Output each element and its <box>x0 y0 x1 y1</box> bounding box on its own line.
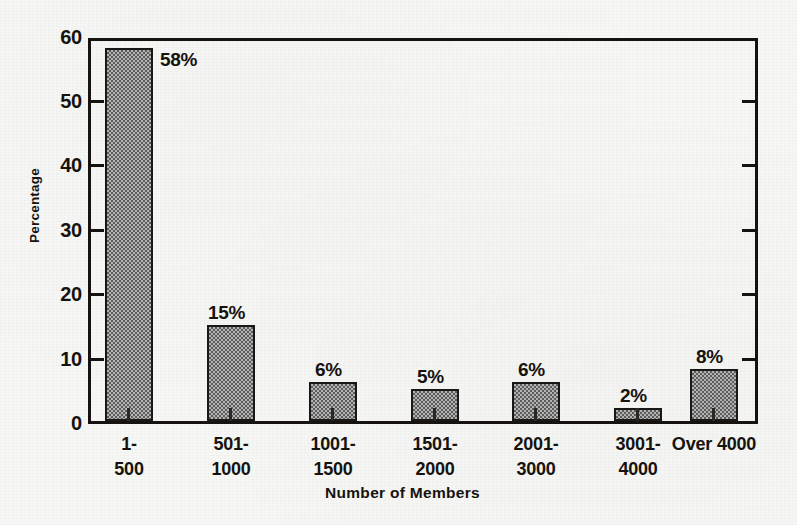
y-tick-label-60: 60 <box>42 26 82 49</box>
y-tick-mark-30 <box>91 229 104 232</box>
x-category-line1-2001-3000: 2001- <box>513 434 558 454</box>
x-category-line1-1501-2000: 1501- <box>412 434 457 454</box>
x-category-line1-1-500: 1- <box>121 434 137 454</box>
bar-501-1000 <box>207 325 255 421</box>
y-tick-mark-50 <box>91 100 104 103</box>
x-category-label-over-4000: Over 4000 <box>654 432 774 457</box>
x-tick-mark-over-4000 <box>712 408 715 421</box>
y-tick-mark-right-50 <box>742 100 755 103</box>
x-category-line2-3001-4000: 4000 <box>578 457 698 482</box>
bar-value-2001-3000: 6% <box>518 359 545 381</box>
x-tick-mark-3001-4000 <box>636 408 639 421</box>
bar-value-501-1000: 15% <box>208 302 245 324</box>
y-axis-title: Percentage <box>27 146 42 266</box>
x-axis-title-text: Number of Members <box>317 484 480 501</box>
x-tick-mark-1-500 <box>127 408 130 421</box>
bar-1-500 <box>105 48 153 421</box>
y-tick-mark-right-30 <box>742 229 755 232</box>
y-tick-label-20: 20 <box>42 283 82 306</box>
y-tick-mark-20 <box>91 293 104 296</box>
y-tick-label-50: 50 <box>42 90 82 113</box>
x-category-line1-over-4000: Over 4000 <box>672 434 756 454</box>
bar-value-1-500: 58% <box>160 49 197 71</box>
x-tick-mark-1501-2000 <box>433 408 436 421</box>
bar-value-1501-2000: 5% <box>417 366 444 388</box>
bar-value-over-4000: 8% <box>696 346 723 368</box>
y-tick-mark-right-20 <box>742 293 755 296</box>
y-tick-mark-right-40 <box>742 164 755 167</box>
y-tick-label-40: 40 <box>42 154 82 177</box>
x-tick-mark-2001-3000 <box>534 408 537 421</box>
x-axis-title: Number of Members <box>0 484 797 502</box>
x-tick-mark-1001-1500 <box>331 408 334 421</box>
y-tick-label-10: 10 <box>42 348 82 371</box>
chart-page: 60 50 40 30 20 10 0 Percentage 58% 15% 6… <box>0 0 797 525</box>
y-tick-mark-10 <box>91 358 104 361</box>
y-tick-mark-40 <box>91 164 104 167</box>
x-category-line1-501-1000: 501- <box>213 434 248 454</box>
bar-value-1001-1500: 6% <box>315 359 342 381</box>
y-tick-mark-right-10 <box>742 358 755 361</box>
y-tick-label-30: 30 <box>42 219 82 242</box>
x-tick-mark-501-1000 <box>229 408 232 421</box>
bar-value-3001-4000: 2% <box>620 385 647 407</box>
x-category-line1-1001-1500: 1001- <box>310 434 355 454</box>
